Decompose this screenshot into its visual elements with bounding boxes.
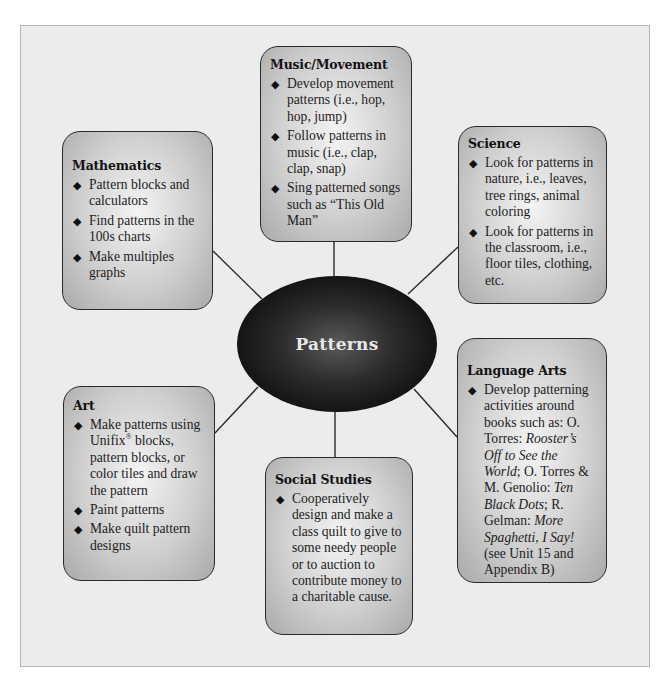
list-item: ◆Cooperatively design and make a class q… (275, 491, 403, 606)
node-item-list: ◆Look for patterns in nature, i.e., leav… (468, 155, 597, 289)
diamond-bullet-icon: ◆ (73, 213, 81, 229)
node-title: Language Arts (467, 363, 597, 379)
node-title: Music/Movement (270, 57, 402, 73)
diamond-bullet-icon: ◆ (74, 502, 82, 518)
list-item: ◆Develop patterning activities around bo… (467, 382, 597, 579)
diamond-bullet-icon: ◆ (74, 417, 82, 433)
list-item: ◆Find patterns in the 100s charts (72, 213, 203, 246)
list-item: ◆Make multiples graphs (72, 249, 203, 282)
node-science: Science ◆Look for patterns in nature, i.… (458, 126, 607, 304)
node-item-list: ◆Develop movement patterns (i.e., hop, h… (270, 76, 402, 230)
diamond-bullet-icon: ◆ (469, 155, 477, 171)
diamond-bullet-icon: ◆ (73, 177, 81, 193)
node-art: Art ◆Make patterns using Unifix® blocks,… (63, 386, 215, 581)
node-item-list: ◆Develop patterning activities around bo… (467, 382, 597, 579)
node-item-list: ◆Make patterns using Unifix® blocks, pat… (73, 417, 205, 554)
diamond-bullet-icon: ◆ (271, 180, 279, 196)
node-title: Social Studies (275, 472, 403, 488)
node-title: Science (468, 136, 597, 152)
diamond-bullet-icon: ◆ (468, 382, 476, 398)
diamond-bullet-icon: ◆ (73, 249, 81, 265)
node-item-list: ◆Pattern blocks and calculators ◆Find pa… (72, 177, 203, 281)
node-title: Mathematics (72, 158, 203, 174)
node-language-arts: Language Arts ◆Develop patterning activi… (457, 338, 607, 583)
node-social-studies: Social Studies ◆Cooperatively design and… (265, 457, 413, 635)
diamond-bullet-icon: ◆ (271, 128, 279, 144)
list-item: ◆Make quilt pattern designs (73, 521, 205, 554)
diamond-bullet-icon: ◆ (469, 224, 477, 240)
list-item: ◆Paint patterns (73, 502, 205, 518)
node-item-list: ◆Cooperatively design and make a class q… (275, 491, 403, 606)
list-item: ◆Look for patterns in nature, i.e., leav… (468, 155, 597, 221)
central-topic: Patterns (237, 276, 437, 412)
central-topic-label: Patterns (295, 334, 378, 354)
diamond-bullet-icon: ◆ (271, 76, 279, 92)
node-title: Art (73, 398, 205, 414)
list-item: ◆Look for patterns in the classroom, i.e… (468, 224, 597, 290)
list-item: ◆Pattern blocks and calculators (72, 177, 203, 210)
list-item: ◆Sing patterned songs such as “This Old … (270, 180, 402, 229)
node-mathematics: Mathematics ◆Pattern blocks and calculat… (62, 131, 213, 310)
list-item: ◆Follow patterns in music (i.e., clap, c… (270, 128, 402, 177)
list-item: ◆Make patterns using Unifix® blocks, pat… (73, 417, 205, 499)
diamond-bullet-icon: ◆ (74, 521, 82, 537)
list-item: ◆Develop movement patterns (i.e., hop, h… (270, 76, 402, 125)
diamond-bullet-icon: ◆ (276, 491, 284, 507)
node-music-movement: Music/Movement ◆Develop movement pattern… (260, 46, 412, 242)
